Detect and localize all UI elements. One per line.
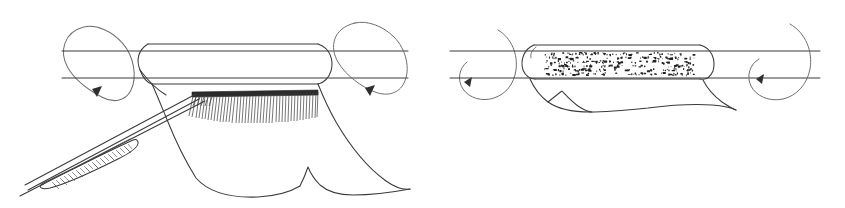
- stipple-speck: [572, 66, 574, 68]
- stipple-speck: [621, 61, 624, 63]
- stipple-speck: [669, 58, 670, 60]
- stipple-speck: [647, 61, 648, 63]
- stipple-speck: [661, 73, 662, 74]
- stipple-speck: [684, 58, 687, 60]
- stipple-speck: [684, 66, 685, 67]
- stipple-speck: [549, 56, 550, 58]
- stipple-speck: [595, 73, 596, 75]
- stipple-speck: [673, 73, 674, 75]
- stipple-speck: [579, 53, 581, 55]
- stipple-speck: [693, 64, 695, 66]
- stipple-speck: [598, 62, 599, 63]
- stipple-speck: [577, 62, 578, 63]
- stipple-speck: [692, 69, 693, 71]
- stipple-speck: [609, 65, 610, 67]
- stipple-speck: [559, 74, 560, 75]
- stipple-speck: [596, 70, 597, 72]
- stipple-speck: [655, 58, 657, 60]
- stipple-speck: [665, 70, 666, 71]
- stipple-speck: [561, 61, 562, 62]
- stipple-speck: [635, 72, 636, 74]
- stipple-speck: [585, 70, 587, 71]
- stipple-speck: [651, 74, 652, 76]
- figure-root: Rotating cylinder with brush applicator …: [0, 0, 845, 208]
- stipple-speck: [558, 60, 559, 61]
- stipple-speck: [595, 61, 597, 63]
- stipple-speck: [670, 58, 673, 60]
- stipple-speck: [569, 66, 570, 67]
- stipple-speck: [548, 66, 549, 67]
- stipple-speck: [585, 52, 587, 54]
- stipple-speck: [590, 58, 591, 59]
- stipple-speck: [657, 58, 658, 59]
- stipple-speck: [636, 52, 639, 53]
- stipple-speck: [677, 72, 678, 74]
- stipple-speck: [566, 62, 568, 64]
- stipple-speck: [583, 61, 584, 62]
- stipple-speck: [553, 53, 555, 54]
- stipple-speck: [588, 73, 590, 74]
- stipple-speck: [602, 65, 606, 66]
- stipple-speck: [677, 58, 678, 60]
- stipple-speck: [551, 64, 552, 66]
- stipple-speck: [647, 70, 650, 72]
- stipple-speck: [632, 65, 634, 66]
- stipple-speck: [563, 70, 564, 72]
- stipple-speck: [568, 69, 570, 70]
- stipple-speck: [657, 52, 659, 54]
- stipple-speck: [687, 74, 689, 75]
- stipple-speck: [602, 62, 603, 64]
- stipple-speck: [573, 60, 574, 61]
- stipple-speck: [579, 69, 580, 71]
- stipple-speck: [668, 73, 669, 75]
- stipple-speck: [570, 73, 571, 74]
- line-art-illustration: [0, 0, 845, 208]
- stipple-speck: [622, 65, 623, 66]
- stipple-speck: [626, 53, 627, 55]
- stipple-speck: [644, 57, 647, 59]
- stipple-speck: [590, 54, 593, 55]
- stipple-speck: [633, 74, 634, 75]
- stipple-speck: [676, 64, 679, 66]
- stipple-speck: [675, 74, 677, 76]
- stipple-speck: [604, 69, 606, 71]
- stipple-speck: [552, 74, 554, 75]
- stipple-speck: [625, 69, 628, 71]
- stipple-speck: [623, 53, 625, 54]
- stipple-speck: [639, 74, 640, 75]
- stipple-speck: [663, 72, 666, 74]
- stipple-speck: [666, 62, 668, 63]
- stipple-speck: [603, 62, 604, 64]
- stipple-speck: [546, 56, 547, 57]
- stipple-speck: [582, 62, 585, 63]
- stipple-speck: [614, 66, 617, 68]
- stipple-speck: [614, 68, 615, 70]
- stipple-speck: [562, 73, 564, 75]
- stipple-speck: [558, 58, 561, 60]
- stipple-speck: [593, 73, 594, 74]
- stipple-speck: [587, 56, 588, 58]
- canvas-background: [0, 0, 845, 208]
- stipple-speck: [582, 68, 584, 70]
- stipple-speck: [654, 73, 655, 75]
- stipple-speck: [636, 74, 637, 76]
- stipple-speck: [559, 65, 561, 67]
- stipple-speck: [642, 56, 643, 58]
- stipple-speck: [605, 72, 606, 73]
- stipple-speck: [566, 56, 569, 58]
- stipple-speck: [674, 53, 675, 54]
- stipple-speck: [575, 69, 576, 70]
- stipple-speck: [644, 66, 645, 68]
- stipple-speck: [643, 73, 646, 75]
- stipple-speck: [583, 54, 584, 56]
- stipple-speck: [558, 69, 559, 71]
- stipple-speck: [554, 69, 557, 71]
- stipple-speck: [564, 62, 565, 64]
- stipple-speck: [572, 64, 573, 66]
- stipple-speck: [609, 54, 610, 55]
- stipple-speck: [649, 54, 652, 55]
- stipple-speck: [674, 66, 675, 68]
- stipple-speck: [609, 65, 611, 67]
- stipple-speck: [688, 62, 690, 63]
- stipple-speck: [672, 70, 676, 71]
